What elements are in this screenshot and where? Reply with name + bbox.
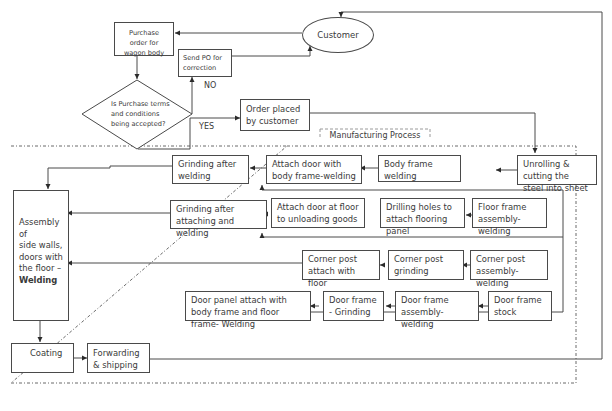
edge-label-no: NO [204,81,216,90]
purchase-order-label: Purchase order for wagon body [124,29,164,57]
node-corner-post-attach: Corner post attach with floor [302,250,380,280]
node-door-frame-grinding: Door frame - Grinding [323,291,384,321]
node-corner-post-assembly: Corner post assembly-welding [470,250,548,280]
node-customer: Customer [302,17,374,53]
node-door-frame-assembly: Door frame assembly- welding [395,291,479,321]
node-grinding-after-attaching: Grinding after attaching and welding [170,200,267,229]
node-forwarding: Forwarding & shipping [87,343,150,373]
assembly-line-3: doors with [19,252,63,264]
node-grinding-after-welding: Grinding after welding [172,155,249,184]
node-assembly: Assembly of side walls, doors with the f… [13,190,69,321]
assembly-line-2: side walls, [19,240,63,252]
node-drilling-holes: Drilling holes to attach flooring panel [380,198,465,228]
node-attach-door-body: Attach door with body frame-welding [266,155,362,184]
forwarding-label: Forwarding & shipping [93,348,140,370]
node-order-placed: Order placed by customer [240,99,310,131]
attach-door-body-label: Attach door with body frame-welding [272,159,356,181]
node-corner-post-grinding: Corner post grinding [388,250,464,280]
node-send-po: Send PO for correction [178,49,232,77]
node-attach-door-floor: Attach door at floor to unloading goods [271,198,365,228]
node-door-frame-stock: Door frame stock [488,291,552,321]
send-po-label: Send PO for correction [183,54,222,72]
attach-door-floor-label: Attach door at floor to unloading goods [277,202,359,224]
grinding-after-welding-label: Grinding after welding [178,159,236,181]
assembly-line-bold: Welding [19,275,63,287]
group-label-manufacturing: Manufacturing Process [322,131,428,140]
assembly-line-1: Assembly of [19,217,63,240]
order-placed-label: Order placed by customer [246,104,300,126]
node-body-frame-welding: Body frame welding [378,155,461,182]
coating-label: Coating [30,348,62,358]
flowchart-canvas: Customer Purchase order for wagon body S… [0,0,612,411]
unrolling-label: Unrolling & cutting the steel into sheet [523,159,588,193]
node-floor-frame-assembly: Floor frame assembly-welding [472,198,547,228]
assembly-line-4: the floor – [19,263,63,275]
door-frame-grinding-label: Door frame - Grinding [329,295,377,317]
body-frame-welding-label: Body frame welding [384,159,433,181]
decision-label: Is Purchase terms and conditions being a… [111,99,171,129]
node-door-panel-attach: Door panel attach with body frame and fl… [185,291,311,321]
corner-post-grinding-label: Corner post grinding [394,254,443,276]
node-purchase-order: Purchase order for wagon body [114,22,174,56]
customer-label: Customer [317,30,358,40]
node-coating: Coating [11,343,74,373]
node-unrolling: Unrolling & cutting the steel into sheet [517,155,597,185]
edge-label-yes: YES [199,122,214,131]
door-frame-stock-label: Door frame stock [494,295,542,317]
